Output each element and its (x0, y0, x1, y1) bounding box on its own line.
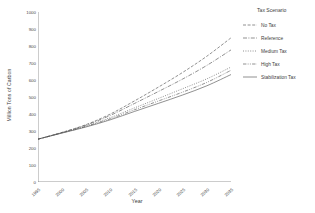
legend-item[interactable]: Stabilization Tax (243, 71, 315, 83)
y-tick-label: 700 (16, 61, 36, 66)
legend-line-swatch (243, 22, 257, 28)
x-tick-label: 2000 (55, 187, 66, 197)
y-tick-label: 1000 (16, 10, 36, 15)
y-tick-label: 100 (16, 163, 36, 168)
plot-canvas (38, 12, 231, 182)
x-tick-label: 2030 (199, 187, 210, 197)
legend-item[interactable]: Medium Tax (243, 45, 315, 57)
legend-line-swatch (243, 74, 257, 80)
y-tick-label: 400 (16, 112, 36, 117)
legend-item-label: No Tax (261, 23, 276, 28)
legend: Tax Scenario No TaxReferenceMedium TaxHi… (243, 7, 315, 84)
y-tick-label: 800 (16, 44, 36, 49)
legend-line-swatch (243, 35, 257, 41)
x-tick-label: 2005 (79, 187, 90, 197)
legend-title: Tax Scenario (257, 7, 315, 13)
legend-item-label: High Tax (261, 62, 280, 67)
y-tick-label: 200 (16, 146, 36, 151)
series-line (38, 38, 231, 139)
x-tick-label: 1995 (31, 187, 42, 197)
axis-lines (38, 12, 231, 182)
x-axis-title: Year (38, 198, 236, 204)
y-tick-label: 300 (16, 129, 36, 134)
legend-line-swatch (243, 48, 257, 54)
legend-item-label: Medium Tax (261, 49, 287, 54)
legend-items: No TaxReferenceMedium TaxHigh TaxStabili… (243, 19, 315, 83)
series-line (38, 70, 231, 139)
legend-line-swatch (243, 61, 257, 67)
x-axis-tick-labels: 199520002005201020152020202520302035 (38, 184, 238, 196)
x-tick-label: 2025 (175, 187, 186, 197)
x-tick-label: 2035 (224, 187, 235, 197)
x-tick-label: 2015 (127, 187, 138, 197)
series-line (38, 50, 231, 139)
y-tick-label: 0 (16, 180, 36, 185)
y-tick-label: 900 (16, 27, 36, 32)
y-tick-label: 500 (16, 95, 36, 100)
y-axis-tick-labels: 01002003004005006007008009001000 (14, 12, 36, 182)
legend-item-label: Reference (261, 36, 283, 41)
legend-item[interactable]: Reference (243, 32, 315, 44)
chart-figure: Million Tons of Carbon 01002003004005006… (0, 0, 315, 213)
y-tick-label: 600 (16, 78, 36, 83)
x-tick-label: 2010 (103, 187, 114, 197)
plot-area (38, 12, 231, 182)
legend-item[interactable]: No Tax (243, 19, 315, 31)
y-axis-title-text: Million Tons of Carbon (6, 69, 12, 122)
series-lines (38, 38, 231, 139)
x-tick-label: 2020 (151, 187, 162, 197)
legend-item[interactable]: High Tax (243, 58, 315, 70)
legend-item-label: Stabilization Tax (261, 75, 296, 80)
